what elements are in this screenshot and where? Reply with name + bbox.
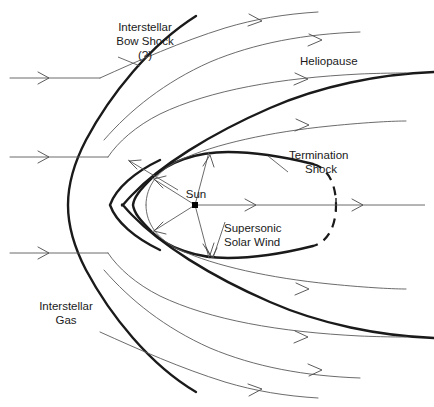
solar-wind-label-line1: Supersonic	[224, 222, 282, 234]
bow-shock-label-line3: (?)	[138, 49, 152, 61]
solar-wind-arrowhead-down	[203, 243, 214, 255]
sun-marker	[192, 202, 198, 208]
bow-shock-label-line1: Interstellar	[118, 21, 172, 33]
interstellar-gas-label-line2: Gas	[55, 314, 76, 326]
streamline-lower-4-arrowhead	[295, 283, 309, 295]
interstellar-gas-label-line1: Interstellar	[39, 300, 93, 312]
solar-wind-label-line2: Solar Wind	[224, 236, 280, 248]
heliopause-label: Heliopause	[300, 55, 358, 67]
heliosphere-diagram: Interstellar Bow Shock (?) Heliopause Te…	[0, 0, 434, 407]
termination-shock-label-line2: Shock	[305, 163, 337, 175]
solar-wind-ray-downleft	[152, 205, 195, 232]
heliopause-nose	[110, 160, 160, 250]
diagram-canvas: Interstellar Bow Shock (?) Heliopause Te…	[0, 0, 434, 407]
termination-shock-label-line1: Termination	[289, 149, 348, 161]
sun-label: Sun	[186, 188, 206, 200]
streamline-lower-1	[100, 332, 318, 398]
streamline-lower-3-arrowhead	[294, 331, 308, 343]
solar-wind-arrowhead-up	[203, 155, 214, 167]
bow-shock-label-line2: Bow Shock	[116, 35, 174, 47]
